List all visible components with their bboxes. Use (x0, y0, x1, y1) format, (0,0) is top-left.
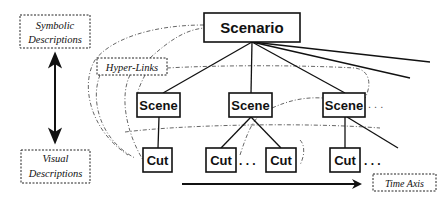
time-axis-label: Time Axis (385, 178, 424, 189)
visual-line1: Visual (42, 153, 68, 164)
scene-label: Scene (231, 98, 269, 113)
cut-label: Cut (270, 153, 292, 168)
cut-label: Cut (147, 153, 169, 168)
visual-descriptions-box: Visual Descriptions (21, 150, 90, 183)
symbolic-descriptions-box: Symbolic Descriptions (20, 15, 90, 48)
scene-node: Scene (323, 93, 365, 117)
scene-node: Scene (229, 93, 272, 117)
scene-node: Scene (137, 93, 180, 117)
cut-ellipsis: . . . (364, 154, 381, 168)
cut-node: Cut (143, 148, 172, 172)
scenario-label: Scenario (220, 19, 283, 36)
hyperlinks-label: Hyper-Links (105, 62, 158, 73)
time-axis-box: Time Axis (373, 174, 436, 191)
symbolic-line1: Symbolic (36, 20, 75, 31)
scene-ellipsis: . . . (368, 98, 383, 110)
symbolic-visual-double-arrow (50, 54, 60, 142)
cut-node: Cut (266, 148, 296, 172)
hyperlinks-box: Hyper-Links (97, 58, 167, 75)
cut-ellipsis: . . . (239, 154, 256, 168)
cut-node: Cut (330, 148, 360, 172)
scene-label: Scene (325, 98, 363, 113)
scenario-node: Scenario (204, 13, 300, 42)
cut-node: Cut (206, 148, 236, 172)
tree-edges (158, 42, 430, 148)
scene-label: Scene (139, 98, 177, 113)
hierarchy-diagram: Scenario Scene Scene Scene . . . Cut Cut… (0, 0, 442, 204)
cut-label: Cut (334, 153, 356, 168)
symbolic-line2: Descriptions (27, 34, 82, 45)
cut-label: Cut (210, 153, 232, 168)
visual-line2: Descriptions (28, 168, 83, 179)
